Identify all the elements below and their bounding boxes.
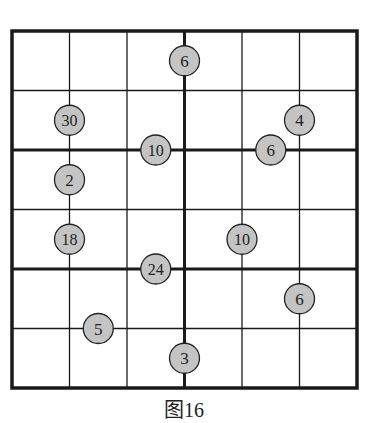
clue-circle: 6 xyxy=(256,135,286,165)
clue-value: 10 xyxy=(148,142,164,159)
clue-circle: 4 xyxy=(285,105,315,135)
clue-circle: 6 xyxy=(285,284,315,314)
clue-value: 5 xyxy=(94,320,103,339)
clue-circle: 18 xyxy=(55,224,85,254)
clue-value: 6 xyxy=(295,290,304,309)
clue-value: 18 xyxy=(62,231,78,248)
clue-circle: 10 xyxy=(227,224,257,254)
clue-value: 6 xyxy=(180,52,189,71)
clue-value: 10 xyxy=(234,231,250,248)
clue-circle: 2 xyxy=(55,165,85,195)
clue-value: 3 xyxy=(180,349,189,368)
clue-circle: 3 xyxy=(170,343,200,373)
clue-value: 4 xyxy=(295,111,304,130)
clue-circle: 6 xyxy=(170,46,200,76)
clue-value: 24 xyxy=(148,261,164,278)
clue-value: 6 xyxy=(267,141,276,160)
clue-value: 2 xyxy=(65,171,74,190)
clue-value: 30 xyxy=(62,112,78,129)
figure-caption: 图16 xyxy=(0,394,368,423)
clue-circle: 30 xyxy=(55,105,85,135)
clue-circle: 5 xyxy=(83,314,113,344)
clue-circle: 24 xyxy=(141,254,171,284)
clue-circle: 10 xyxy=(141,135,171,165)
